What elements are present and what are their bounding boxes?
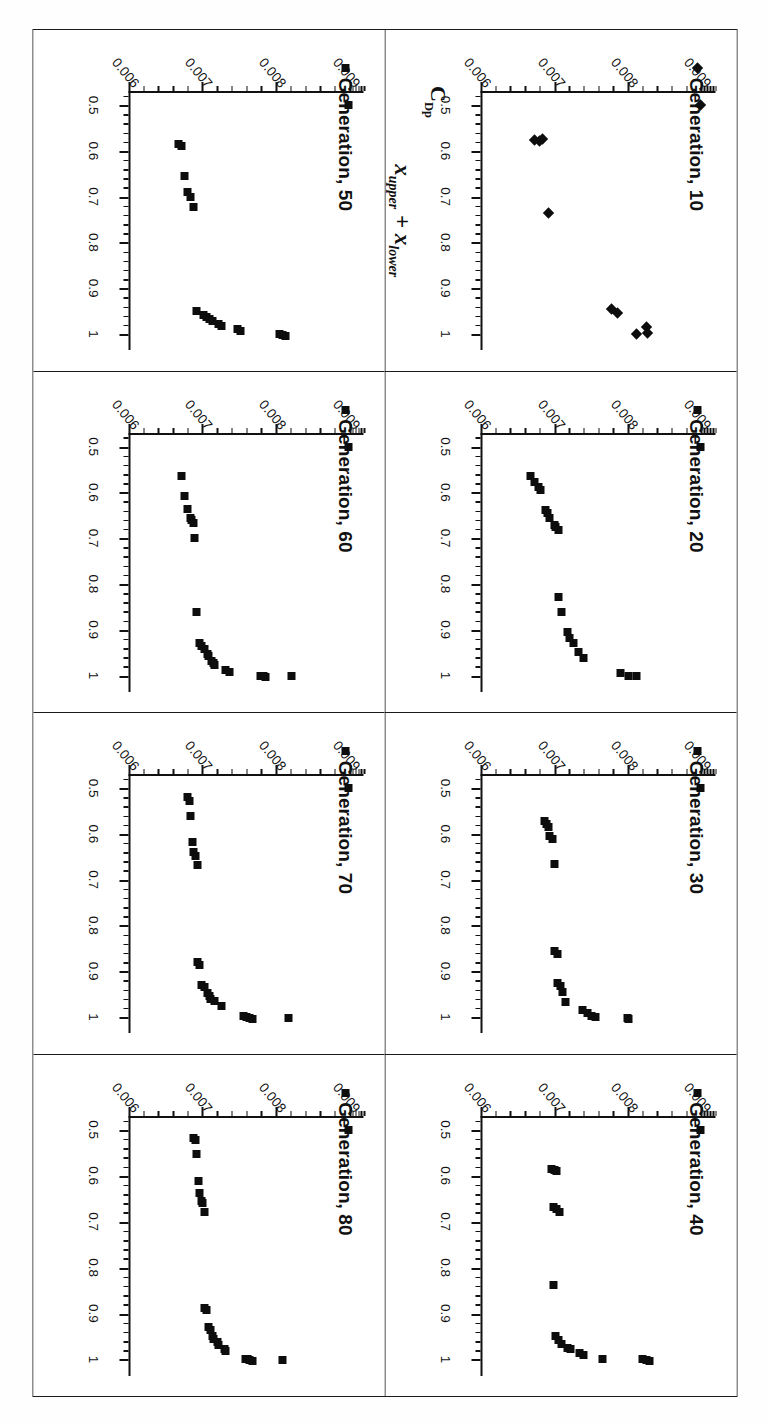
y-tick-minor xyxy=(355,1110,357,1115)
x-tick-minor xyxy=(123,123,128,125)
x-tick-minor xyxy=(475,224,480,226)
legend-marker-key xyxy=(341,747,349,755)
y-tick-minor xyxy=(334,769,336,774)
data-point xyxy=(555,1207,563,1215)
y-tick-minor xyxy=(568,86,570,91)
x-tick-major xyxy=(119,1129,128,1131)
x-tick-minor xyxy=(123,852,128,854)
x-tick-minor xyxy=(123,464,128,466)
x-tick-minor xyxy=(475,132,480,134)
x-tick-minor xyxy=(475,464,480,466)
y-tick-minor xyxy=(524,769,526,774)
x-tick-minor xyxy=(475,998,480,1000)
y-tick-minor xyxy=(642,86,644,91)
x-tick-minor xyxy=(123,916,128,918)
y-tick-minor xyxy=(187,427,189,432)
x-tick-label: 0.6 xyxy=(85,482,100,501)
chart-panel-60: Generation, 600.0060.0070.0080.0090.50.6… xyxy=(33,371,385,713)
x-tick-minor xyxy=(475,1148,480,1150)
y-tick-minor xyxy=(712,427,714,432)
x-tick-major xyxy=(471,833,480,835)
x-tick-label: 0.7 xyxy=(85,187,100,206)
x-tick-minor xyxy=(123,989,128,991)
data-point xyxy=(261,673,269,681)
y-axis-line xyxy=(480,432,715,434)
y-tick-label: 0.007 xyxy=(182,1080,215,1116)
x-tick-minor xyxy=(123,648,128,650)
x-tick-label: 1 xyxy=(85,1355,100,1363)
x-axis-line xyxy=(128,774,130,1033)
data-point xyxy=(632,672,640,680)
x-tick-major xyxy=(119,196,128,198)
y-tick-minor xyxy=(703,86,705,91)
x-tick-label: 0.8 xyxy=(85,233,100,252)
x-tick-major xyxy=(471,196,480,198)
y-tick-minor xyxy=(703,769,705,774)
y-tick-minor xyxy=(187,86,189,91)
x-tick-minor xyxy=(475,1350,480,1352)
x-tick-minor xyxy=(123,602,128,604)
x-tick-minor xyxy=(475,279,480,281)
x-tick-major xyxy=(119,334,128,336)
x-tick-label: 0.6 xyxy=(437,482,452,501)
x-tick-minor xyxy=(123,224,128,226)
data-point xyxy=(210,660,218,668)
data-point xyxy=(192,1149,200,1157)
data-point xyxy=(344,784,352,792)
x-tick-minor xyxy=(123,870,128,872)
x-tick-minor xyxy=(123,797,128,799)
data-point xyxy=(189,202,197,210)
y-tick-minor xyxy=(715,427,717,432)
x-tick-minor xyxy=(475,214,480,216)
y-tick-minor xyxy=(715,1110,717,1115)
x-tick-minor xyxy=(475,474,480,476)
data-point xyxy=(536,486,544,494)
plot-area: 0.0060.0070.0080.0090.50.60.70.80.91 xyxy=(480,1115,715,1375)
x-tick-minor xyxy=(475,943,480,945)
x-tick-label: 0.5 xyxy=(85,95,100,114)
data-point xyxy=(236,327,244,335)
x-tick-label: 1 xyxy=(85,671,100,679)
y-tick-minor xyxy=(260,427,262,432)
x-tick-label: 0.8 xyxy=(437,233,452,252)
y-tick-minor xyxy=(656,86,658,91)
y-axis-line xyxy=(480,91,715,93)
x-tick-minor xyxy=(123,638,128,640)
x-tick-minor xyxy=(475,852,480,854)
y-tick-minor xyxy=(612,1110,614,1115)
y-tick-label: 0.006 xyxy=(461,55,494,91)
y-tick-minor xyxy=(709,427,711,432)
x-tick-minor xyxy=(475,260,480,262)
data-point xyxy=(278,1356,286,1364)
y-tick-minor xyxy=(671,86,673,91)
y-tick-minor xyxy=(355,427,357,432)
y-tick-minor xyxy=(172,1110,174,1115)
x-tick-minor xyxy=(475,95,480,97)
y-tick-minor xyxy=(305,1110,307,1115)
data-point xyxy=(221,1347,229,1355)
data-point xyxy=(180,172,188,180)
x-tick-minor xyxy=(123,1341,128,1343)
data-point xyxy=(217,1001,225,1009)
y-tick-minor xyxy=(686,86,688,91)
y-tick-minor xyxy=(598,427,600,432)
data-point xyxy=(548,835,556,843)
x-tick-major xyxy=(119,675,128,677)
rotated-figure-wrapper: Generation, 100.0060.0070.0080.0090.50.6… xyxy=(0,0,769,1425)
y-tick-minor xyxy=(290,769,292,774)
data-point xyxy=(180,491,188,499)
y-tick-minor xyxy=(524,1110,526,1115)
y-tick-minor xyxy=(187,769,189,774)
x-tick-major xyxy=(471,288,480,290)
x-tick-minor xyxy=(475,980,480,982)
x-tick-minor xyxy=(123,547,128,549)
data-point xyxy=(189,519,197,527)
y-tick-minor xyxy=(360,86,362,91)
x-tick-minor xyxy=(123,1166,128,1168)
y-tick-label: 0.007 xyxy=(534,396,567,432)
y-tick-label: 0.006 xyxy=(461,396,494,432)
y-tick-minor xyxy=(360,427,362,432)
y-tick-minor xyxy=(703,427,705,432)
y-tick-minor xyxy=(612,86,614,91)
x-tick-minor xyxy=(123,1295,128,1297)
